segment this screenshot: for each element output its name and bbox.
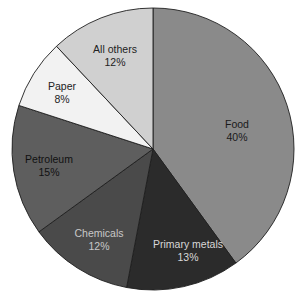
slice-label-food: Food40% bbox=[225, 118, 249, 143]
pie-chart: Food40%Primary metals13%Chemicals12%Petr… bbox=[0, 0, 305, 299]
